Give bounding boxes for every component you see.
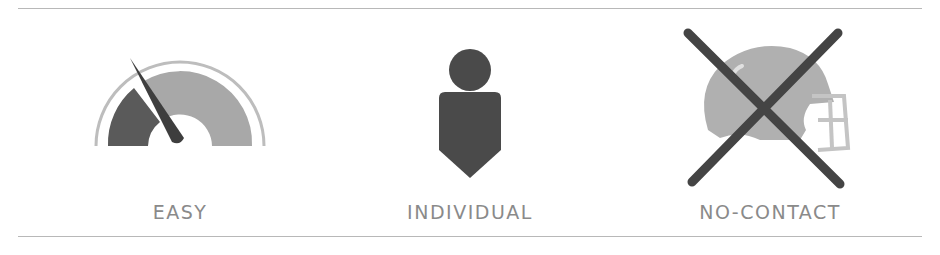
feature-label-easy: EASY	[60, 201, 300, 223]
feature-individual: INDIVIDUAL	[350, 0, 590, 236]
crossed-out-football-helmet-icon	[650, 0, 890, 200]
feature-label-no-contact: NO-CONTACT	[650, 201, 890, 223]
bottom-divider	[18, 236, 922, 237]
feature-easy: EASY	[60, 0, 300, 236]
speedometer-gauge-icon	[60, 0, 300, 200]
feature-label-individual: INDIVIDUAL	[350, 201, 590, 223]
person-icon	[350, 0, 590, 200]
feature-no-contact: NO-CONTACT	[650, 0, 890, 236]
